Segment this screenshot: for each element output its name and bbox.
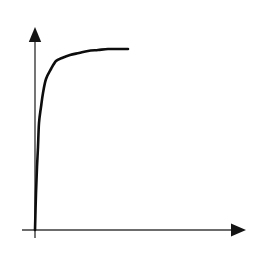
saturating-curve-plot <box>0 0 259 256</box>
figure-canvas: monotonically increasing concave saturat… <box>0 0 259 256</box>
